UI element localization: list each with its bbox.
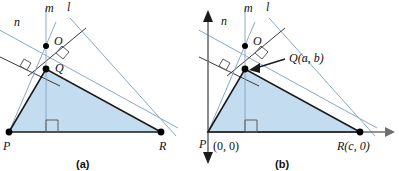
point-O — [43, 43, 49, 49]
geometry-figure: n m l O Q P R (a) — [0, 0, 399, 171]
point-R — [357, 129, 364, 136]
label-line-m: m — [45, 1, 54, 15]
point-Q — [242, 66, 249, 73]
point-P — [6, 129, 13, 136]
label-line-l: l — [67, 0, 71, 14]
right-angle-mark-n — [219, 59, 230, 70]
y-axis-arrow-down-icon — [203, 152, 213, 164]
label-point-O: O — [54, 34, 63, 48]
label-point-P: P — [199, 137, 207, 151]
label-origin-coords: (0, 0) — [213, 139, 239, 153]
label-line-m: m — [244, 1, 253, 15]
label-point-R: R — [158, 139, 167, 153]
panel-b: n m l O Q(a, b) P (0, 0) R(c, 0) (b) — [199, 0, 398, 171]
label-point-Q: Q — [55, 61, 64, 75]
label-point-O: O — [253, 34, 262, 48]
label-point-P: P — [2, 139, 11, 153]
panel-a-canvas: n m l O Q P R (a) — [0, 0, 199, 171]
label-line-n: n — [14, 15, 20, 29]
right-angle-mark-n — [20, 59, 31, 70]
point-R — [158, 129, 165, 136]
panel-b-canvas: n m l O Q(a, b) P (0, 0) R(c, 0) (b) — [199, 0, 398, 171]
panel-b-caption: (b) — [275, 158, 289, 170]
panel-a-caption: (a) — [76, 158, 90, 170]
label-point-R: R(c, 0) — [336, 139, 370, 153]
label-line-l: l — [266, 0, 270, 14]
y-axis-arrow-up-icon — [203, 10, 213, 22]
x-axis-arrow-icon — [385, 127, 395, 137]
label-line-n: n — [221, 14, 227, 28]
panel-a: n m l O Q P R (a) — [0, 0, 199, 171]
label-point-Q: Q(a, b) — [289, 51, 324, 65]
point-O — [242, 43, 248, 49]
point-Q — [43, 66, 50, 73]
